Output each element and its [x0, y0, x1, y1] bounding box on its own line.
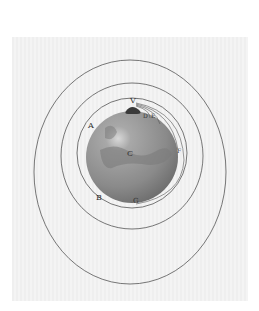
label-G: G: [133, 198, 139, 205]
label-E: E: [151, 113, 155, 119]
label-A: A: [88, 122, 94, 130]
label-F: F: [177, 148, 181, 154]
label-B: B: [96, 194, 102, 202]
label-D: D: [143, 113, 148, 119]
label-C: C: [127, 150, 133, 158]
label-V: V: [130, 97, 136, 105]
mountain-icon: [125, 107, 140, 114]
